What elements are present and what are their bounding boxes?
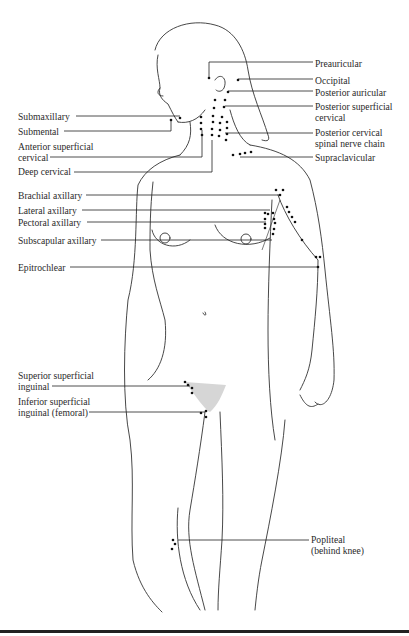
- label-posterior-superficial-cervical-line2: cervical: [315, 112, 345, 123]
- label-inferior-superficial-inguinal: Inferior superficial: [18, 396, 90, 407]
- label-deep-cervical: Deep cervical: [18, 166, 71, 177]
- bottom-rule: [0, 630, 409, 633]
- label-popliteal-line2: (behind knee): [311, 545, 364, 556]
- label-posterior-auricular: Posterior auricular: [315, 87, 386, 98]
- label-epitrochlear: Epitrochlear: [18, 262, 65, 273]
- label-submental: Submental: [18, 126, 59, 137]
- label-submaxillary: Submaxillary: [18, 111, 70, 122]
- label-posterior-cervical-spinal: Posterior cervical: [315, 127, 382, 138]
- label-pectoral-axillary: Pectoral axillary: [18, 217, 81, 228]
- label-superior-superficial-inguinal-line2: inguinal: [18, 381, 49, 392]
- label-brachial-axillary: Brachial axillary: [18, 190, 82, 201]
- label-posterior-superficial-cervical: Posterior superficial: [315, 101, 393, 112]
- label-inferior-superficial-inguinal-line2: inguinal (femoral): [18, 407, 88, 418]
- label-subscapular-axillary: Subscapular axillary: [18, 235, 97, 246]
- label-anterior-superficial-cervical-line2: cervical: [18, 152, 48, 163]
- label-lateral-axillary: Lateral axillary: [18, 205, 77, 216]
- label-supraclavicular: Supraclavicular: [315, 152, 375, 163]
- lymph-node-diagram: Submaxillary Submental Anterior superfic…: [0, 0, 409, 636]
- label-occipital: Occipital: [315, 75, 350, 86]
- label-popliteal: Popliteal: [311, 534, 345, 545]
- label-posterior-cervical-spinal-line2: spinal nerve chain: [315, 138, 385, 149]
- label-superior-superficial-inguinal: Superior superficial: [18, 370, 94, 381]
- label-anterior-superficial-cervical: Anterior superficial: [18, 141, 93, 152]
- label-preauricular: Preauricular: [315, 58, 362, 69]
